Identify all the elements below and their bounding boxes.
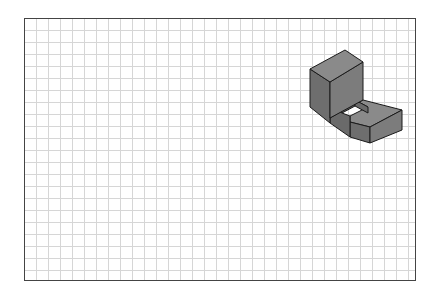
- isometric-solid: [0, 0, 437, 300]
